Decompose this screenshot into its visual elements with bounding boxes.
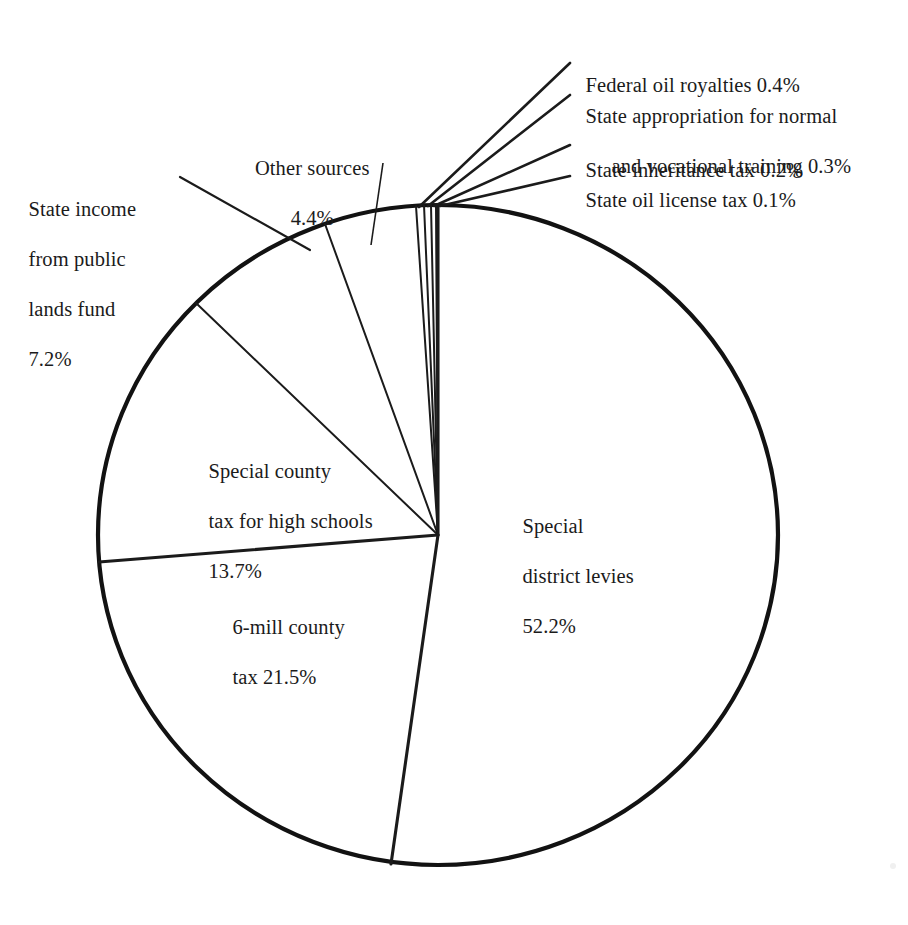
- label-state-income-public-lands-fund: State income from public lands fund 7.2%: [18, 172, 136, 372]
- label-special-district-line1: Special: [522, 515, 583, 537]
- label-special-county-line2: tax for high schools: [208, 510, 372, 532]
- label-special-district-levies: Special district levies 52.2%: [512, 489, 634, 639]
- label-other-sources-line1: Other sources: [255, 157, 370, 179]
- label-special-county-tax-high-schools: Special county tax for high schools 13.7…: [198, 434, 373, 584]
- label-other-sources: Other sources 4.4%: [228, 131, 386, 231]
- label-special-district-line2: district levies: [522, 565, 633, 587]
- label-state-income-line4: 7.2%: [28, 348, 71, 370]
- label-six-mill-line1: 6-mill county: [232, 616, 344, 638]
- label-state-oil-license-tax: State oil license tax 0.1%: [575, 163, 796, 213]
- label-six-mill-county-tax: 6-mill county tax 21.5%: [222, 590, 345, 690]
- label-state-income-line3: lands fund: [28, 298, 115, 320]
- label-state-appropriation-line1: State appropriation for normal: [585, 105, 837, 127]
- label-special-county-line1: Special county: [208, 460, 331, 482]
- label-six-mill-line2: tax 21.5%: [232, 666, 316, 688]
- scan-speck: [890, 863, 896, 869]
- label-state-income-line1: State income: [28, 198, 136, 220]
- label-state-oil-license-tax-text: State oil license tax 0.1%: [585, 189, 795, 211]
- label-state-income-line2: from public: [28, 248, 125, 270]
- label-special-county-line3: 13.7%: [208, 560, 261, 582]
- label-other-sources-line2: 4.4%: [291, 207, 334, 229]
- label-special-district-line3: 52.2%: [522, 615, 575, 637]
